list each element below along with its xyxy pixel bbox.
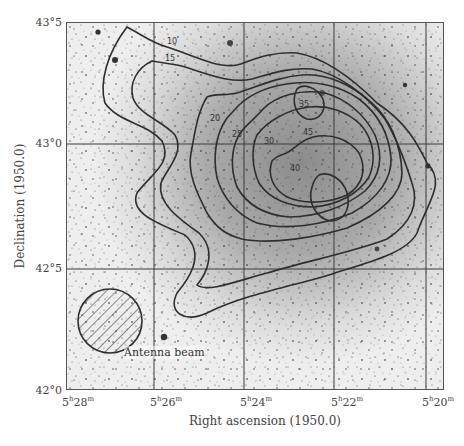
- y-tick-43-5: 43°5: [36, 16, 63, 29]
- contour-label-40: 40: [290, 164, 300, 173]
- contour-label-45: 45: [303, 128, 313, 137]
- x-tick-5h24m: 5h24m: [240, 395, 272, 409]
- bright-star: [95, 29, 100, 34]
- contour-label-10: 10: [167, 37, 177, 46]
- y-tick-42-0: 42°0: [36, 384, 63, 397]
- antenna-beam-label: Antenna beam: [124, 346, 205, 359]
- contour-label-15: 15: [165, 54, 175, 63]
- contour-label-20: 20: [210, 114, 220, 123]
- bright-star: [227, 40, 233, 46]
- sky-image-plot: 10 15 20 25 30 40 45 35: [66, 22, 444, 390]
- y-tick-42-5: 42°5: [36, 262, 63, 275]
- x-tick-5h20m: 5h20m: [422, 395, 454, 409]
- contour-label-30: 30: [264, 137, 274, 146]
- y-tick-43-0: 43°0: [36, 137, 63, 150]
- antenna-beam-circle: [78, 289, 142, 353]
- x-tick-5h26m: 5h26m: [150, 395, 182, 409]
- contour-label-25: 25: [232, 130, 242, 139]
- x-axis-label: Right ascension (1950.0): [0, 414, 464, 428]
- contour-label-35: 35: [299, 100, 309, 109]
- y-axis-label: Declination (1950.0): [13, 144, 27, 269]
- bright-star: [161, 334, 167, 340]
- bright-star: [375, 247, 380, 252]
- x-tick-5h28m: 5h28m: [62, 395, 94, 409]
- bright-star: [403, 83, 407, 87]
- x-tick-5h22m: 5h22m: [331, 395, 363, 409]
- bright-star: [112, 57, 118, 63]
- contour-map: 10 15 20 25 30 40 45 35: [67, 23, 444, 390]
